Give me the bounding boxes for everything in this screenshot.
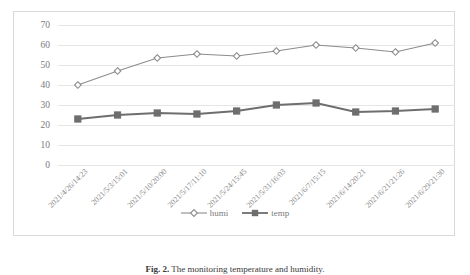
series-line-humi (78, 43, 435, 85)
x-axis-tick-text: 2021/5/3/15:01 (89, 167, 129, 207)
legend-item-temp[interactable]: temp (242, 208, 289, 218)
filled-square-icon (242, 208, 268, 218)
x-axis-tick-text: 2021/6/14/20:21 (324, 167, 367, 210)
y-axis: 706050403020100 (14, 25, 54, 165)
series-line-temp (78, 103, 435, 119)
x-axis-tick-text: 2021/6/29/21:30 (404, 167, 447, 210)
data-point-temp (194, 111, 200, 117)
legend-label: humi (210, 208, 229, 218)
data-point-temp (313, 100, 319, 106)
data-point-humi (352, 45, 359, 52)
y-axis-tick-label: 10 (41, 140, 51, 150)
data-point-temp (392, 108, 398, 114)
data-point-humi (392, 49, 399, 56)
data-point-temp (234, 108, 240, 114)
x-axis-tick-text: 2021/4/26/14:23 (46, 167, 89, 210)
y-axis-tick-label: 50 (41, 60, 51, 70)
y-axis-tick-label: 0 (45, 160, 50, 170)
open-diamond-icon (181, 208, 207, 218)
data-point-humi (273, 48, 280, 55)
x-axis-tick-text: 2021/5/24/15:45 (205, 167, 248, 210)
data-point-humi (154, 55, 161, 62)
data-point-humi (194, 51, 201, 58)
data-point-temp (114, 112, 120, 118)
data-point-humi (75, 82, 82, 89)
data-point-humi (313, 42, 320, 49)
y-axis-tick-label: 20 (41, 120, 51, 130)
y-axis-tick-label: 40 (41, 80, 51, 90)
figure-container: 706050403020100 2021/4/26/14:232021/5/3/… (0, 0, 470, 275)
data-point-temp (75, 116, 81, 122)
legend-label: temp (271, 208, 289, 218)
x-axis-tick-text: 2021/6/7/15:15 (287, 167, 327, 207)
caption-text: The monitoring temperature and humidity. (169, 264, 324, 274)
y-axis-tick-label: 70 (41, 20, 51, 30)
x-axis-tick-text: 2021/5/31/16:03 (245, 167, 288, 210)
data-point-temp (353, 109, 359, 115)
data-point-temp (154, 110, 160, 116)
data-point-humi (114, 68, 121, 75)
x-axis-tick-text: 2021/5/10/20:00 (126, 167, 169, 210)
y-axis-tick-label: 30 (41, 100, 51, 110)
figure-caption: Fig. 2. The monitoring temperature and h… (0, 264, 470, 274)
data-point-temp (432, 106, 438, 112)
chart-frame: 706050403020100 2021/4/26/14:232021/5/3/… (13, 11, 455, 236)
x-axis: 2021/4/26/14:232021/5/3/15:012021/5/10/2… (58, 167, 455, 229)
chart-legend: humitemp (14, 208, 456, 218)
data-point-humi (432, 40, 439, 47)
data-point-humi (233, 53, 240, 60)
x-axis-tick-text: 2021/5/17/11:10 (166, 167, 209, 210)
x-axis-tick-text: 2021/6/21/21:26 (364, 167, 407, 210)
data-point-temp (273, 102, 279, 108)
legend-item-humi[interactable]: humi (181, 208, 229, 218)
y-axis-tick-label: 60 (41, 40, 51, 50)
caption-prefix: Fig. 2. (146, 264, 170, 274)
